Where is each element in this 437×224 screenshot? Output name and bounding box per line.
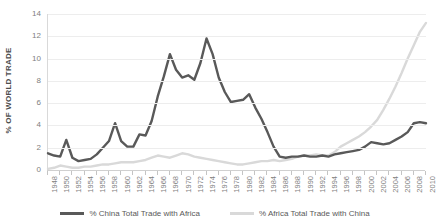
x-axis-tick-label: 1984 [270,176,278,193]
x-axis-tick-label: 2006 [404,176,412,193]
x-axis-tick-mark [59,171,60,175]
y-axis-tick-label: 10 [32,55,41,63]
x-axis-tick-mark [84,171,85,175]
x-axis-tick-label: 1964 [148,176,156,193]
x-axis-tick-mark [132,171,133,175]
x-axis-tick-mark [291,171,292,175]
x-axis-tick-mark [120,171,121,175]
y-axis-tick-label: 0 [37,166,41,174]
x-axis-tick-mark [206,171,207,175]
x-axis-tick-label: 2010 [429,176,437,193]
x-axis-tick-label: 1992 [319,176,327,193]
x-axis-tick-label: 2004 [392,176,400,193]
x-axis-tick-mark [145,171,146,175]
x-axis-tick-mark [230,171,231,175]
gridline [48,81,426,82]
x-axis-tick-label: 1962 [136,176,144,193]
x-axis-tick-mark [108,171,109,175]
gridline [48,103,426,104]
gridline [48,36,426,37]
x-axis-tick-mark [413,171,414,175]
x-axis-tick-label: 1960 [124,176,132,193]
x-axis-tick-mark [71,171,72,175]
x-axis-tick-label: 2000 [368,176,376,193]
y-axis-title: % OF WORLD TRADE [0,0,18,180]
x-axis-tick-labels: 1948195019521954195619581960196219641966… [47,176,425,202]
x-axis-tick-mark [218,171,219,175]
y-axis-tick-label: 8 [37,77,41,85]
x-axis-tick-label: 2008 [416,176,424,193]
x-axis-tick-label: 1990 [307,176,315,193]
x-axis-tick-label: 1972 [197,176,205,193]
x-axis-tick-label: 1958 [111,176,119,193]
x-axis-tick-mark [340,171,341,175]
x-axis-tick-label: 1976 [221,176,229,193]
plot-area [47,14,426,170]
x-axis-tick-label: 1966 [160,176,168,193]
chart-legend: % China Total Trade with Africa% Africa … [0,205,430,221]
x-axis-tick-mark [401,171,402,175]
gridline [48,59,426,60]
x-axis-tick-mark [303,171,304,175]
x-axis-tick-label: 1998 [355,176,363,193]
x-axis-tick-mark [327,171,328,175]
legend-item[interactable]: % China Total Trade with Africa [60,209,200,218]
x-axis-tick-label: 1980 [246,176,254,193]
gridline [48,125,426,126]
x-axis-tick-mark [364,171,365,175]
x-axis-tick-mark [242,171,243,175]
x-axis-tick-mark [388,171,389,175]
y-axis-tick-label: 6 [37,99,41,107]
x-axis-tick-mark [169,171,170,175]
x-axis-tick-mark [352,171,353,175]
x-axis-tick-mark [279,171,280,175]
x-axis-tick-mark [425,171,426,175]
plot-svg [48,14,426,170]
x-axis-tick-label: 1948 [51,176,59,193]
legend-label: % Africa Total Trade with China [259,209,370,218]
x-axis-tick-label: 1982 [258,176,266,193]
y-axis-tick-label: 12 [32,32,41,40]
x-axis-tick-label: 1968 [172,176,180,193]
x-axis-tick-mark [96,171,97,175]
y-axis-tick-label: 14 [32,10,41,18]
x-axis-tick-label: 1956 [99,176,107,193]
x-axis-tick-label: 1996 [343,176,351,193]
x-axis-tick-mark [193,171,194,175]
legend-item[interactable]: % Africa Total Trade with China [230,209,370,218]
gridline [48,14,426,15]
x-axis-tick-label: 1988 [294,176,302,193]
gridline [48,148,426,149]
y-axis-tick-labels: 02468101214 [18,0,44,180]
x-axis-tick-label: 2002 [380,176,388,193]
x-axis-tick-label: 1954 [87,176,95,193]
x-axis-tick-mark [157,171,158,175]
x-axis-tick-mark [254,171,255,175]
legend-color-swatch [230,212,254,215]
x-axis-tick-mark [266,171,267,175]
x-axis-tick-mark [376,171,377,175]
x-axis-tick-label: 1970 [185,176,193,193]
x-axis-tick-mark [47,171,48,175]
x-axis-tick-mark [181,171,182,175]
y-axis-title-text: % OF WORLD TRADE [5,47,14,133]
y-axis-tick-label: 2 [37,144,41,152]
data-series-line [48,39,426,162]
legend-color-swatch [60,212,84,215]
legend-label: % China Total Trade with Africa [89,209,200,218]
x-axis-tick-marks [47,171,425,175]
x-axis-tick-label: 1986 [282,176,290,193]
y-axis-tick-label: 4 [37,121,41,129]
x-axis-tick-label: 1994 [331,176,339,193]
x-axis-tick-label: 1974 [209,176,217,193]
x-axis-tick-label: 1950 [63,176,71,193]
x-axis-tick-mark [315,171,316,175]
x-axis-tick-label: 1978 [233,176,241,193]
x-axis-tick-label: 1952 [75,176,83,193]
